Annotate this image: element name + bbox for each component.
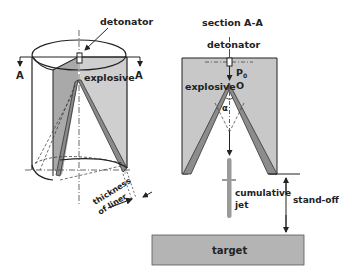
origin-label: O — [236, 80, 244, 91]
shaped-charge-diagram: detonator explosive A A thickness of lin… — [0, 0, 349, 276]
explosive-label-left: explosive — [84, 72, 135, 83]
target-label: target — [212, 245, 247, 256]
cylinder-3d-view — [20, 28, 152, 208]
cumulative-jet — [227, 158, 232, 218]
detonator-section — [227, 58, 232, 66]
jet-label-1: cumulative — [235, 188, 291, 198]
detonator-label-right: detonator — [207, 39, 261, 50]
section-marker-a-left: A — [16, 70, 24, 81]
detonator-3d — [77, 53, 82, 63]
jet-label-2: jet — [234, 200, 249, 210]
explosive-label-right: explosive — [185, 81, 236, 92]
standoff-label: stand-off — [293, 195, 340, 205]
angle-label: α — [222, 103, 228, 113]
section-label: section A-A — [202, 17, 263, 28]
detonator-label-left: detonator — [100, 16, 154, 27]
section-a-a-view — [152, 37, 304, 265]
section-marker-a-right: A — [135, 70, 143, 81]
